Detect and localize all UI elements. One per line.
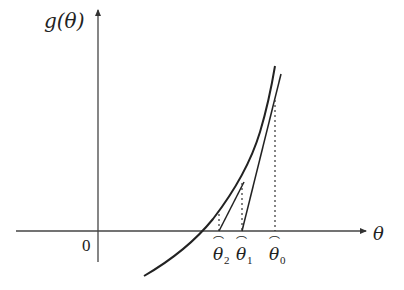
- theta0-label: ⌒ θ 0: [269, 236, 286, 266]
- x-axis-label: θ: [373, 223, 384, 244]
- svg-text:θ: θ: [236, 244, 246, 264]
- svg-text:2: 2: [224, 254, 230, 266]
- origin-label: 0: [82, 236, 91, 255]
- y-axis-label: g(θ): [44, 9, 84, 33]
- tangent-line-theta0: [242, 74, 281, 231]
- newton-method-diagram: g(θ) θ 0 ⌒ θ 2 ⌒ θ 1 ⌒ θ 0: [0, 0, 404, 290]
- theta1-label: ⌒ θ 1: [236, 236, 253, 266]
- function-curve: [144, 66, 275, 276]
- theta2-label: ⌒ θ 2: [213, 236, 230, 266]
- svg-text:θ: θ: [269, 244, 279, 264]
- svg-text:θ: θ: [213, 244, 223, 264]
- svg-text:1: 1: [247, 254, 253, 266]
- svg-text:0: 0: [280, 254, 286, 266]
